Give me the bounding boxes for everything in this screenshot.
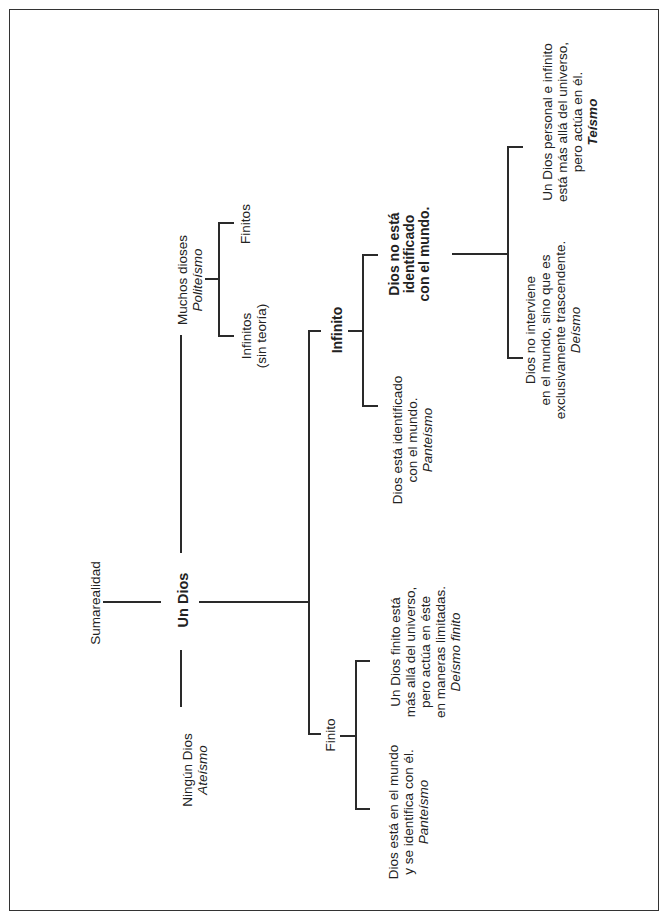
connector-bracket — [507, 146, 509, 358]
connector-bracket — [355, 660, 357, 809]
node-label: Infinito — [330, 307, 345, 354]
node-label: Infinitos — [239, 304, 254, 369]
node-label: Ningún Dios — [180, 733, 195, 807]
node-label: con el mundo. — [405, 376, 420, 504]
node-label: Dios está en el mundo — [386, 745, 401, 879]
connector-bracket — [308, 330, 310, 734]
node-label: Un Dios personal e infinito — [540, 42, 555, 202]
node-label: con el mundo. — [417, 207, 432, 302]
node-label: en el mundo, sino que es — [538, 241, 553, 420]
node-label: Dios no está — [387, 207, 402, 302]
connector-line — [205, 278, 219, 280]
connector-bracket — [362, 254, 364, 406]
node-label: Dios está identificado — [390, 376, 405, 504]
node-label: Un Dios finito está — [388, 586, 403, 718]
connector-line — [308, 733, 321, 735]
node-label: y se identifica con él. — [401, 745, 416, 879]
connector-line — [103, 601, 161, 603]
connector-line — [218, 335, 234, 337]
connector-line — [180, 650, 182, 707]
connector-line — [452, 253, 508, 255]
node-label: Muchos dioses — [175, 235, 190, 325]
node-label: pero actúa en éste — [418, 586, 433, 718]
node-label: (sin teoría) — [254, 304, 269, 369]
node-label: Sumarealidad — [88, 561, 103, 644]
connector-line — [362, 254, 378, 256]
node-term: Ateísmo — [195, 733, 210, 807]
connector-line — [355, 660, 370, 662]
node-term: Deísmo finito — [448, 586, 463, 718]
connector-line — [180, 335, 182, 553]
node-label: identificado — [402, 207, 417, 302]
connector-line — [507, 357, 523, 359]
node-label: está más allá del universo, — [555, 42, 570, 202]
node-label: Finitos — [238, 204, 253, 244]
node-label: Dios no interviene — [523, 241, 538, 420]
connector-line — [362, 405, 378, 407]
connector-bracket — [218, 222, 220, 336]
node-label: Un Dios — [176, 573, 191, 628]
node-term: Panteísmo — [416, 745, 431, 879]
node-label: en maneras limitadas. — [433, 586, 448, 718]
node-label: más allá del universo, — [403, 586, 418, 718]
connector-line — [348, 330, 363, 332]
node-label: pero actúa en él. — [570, 42, 585, 202]
node-label: Finito — [323, 718, 338, 751]
node-label: exclusivamente trascendente. — [553, 241, 568, 420]
connector-line — [340, 735, 355, 737]
connector-line — [355, 808, 370, 810]
node-term: Politeísmo — [190, 235, 205, 325]
connector-line — [308, 330, 321, 332]
connector-line — [507, 146, 523, 148]
node-term: Panteísmo — [420, 376, 435, 504]
connector-line — [218, 222, 234, 224]
node-term: Teísmo — [585, 42, 600, 202]
node-term: Deísmo — [568, 241, 583, 420]
connector-line — [199, 601, 309, 603]
